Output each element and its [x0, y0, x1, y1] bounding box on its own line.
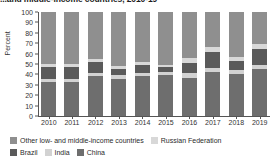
x-tick-label: 2014 — [135, 119, 150, 129]
bar-segment[interactable] — [182, 78, 197, 116]
stacked-bar-chart-figure: ...and middle-income countries, 2010-19 … — [0, 0, 274, 164]
bar-segment[interactable] — [41, 67, 56, 78]
x-tick-mark — [260, 116, 261, 119]
bar-segment[interactable] — [111, 12, 126, 66]
x-tick-mark — [95, 116, 96, 119]
bar-segment[interactable] — [229, 74, 244, 116]
legend-swatch-icon — [10, 149, 17, 156]
bar-segment[interactable] — [88, 62, 103, 73]
legend-row-1: Other low- and middle-income countriesRu… — [10, 134, 274, 146]
bar-segment[interactable] — [229, 12, 244, 57]
legend-swatch-icon — [77, 149, 84, 156]
x-tick-label: 2012 — [88, 119, 103, 129]
bar-segment[interactable] — [135, 65, 150, 73]
legend-item[interactable]: Other low- and middle-income countries — [10, 137, 144, 144]
bar-segment[interactable] — [135, 12, 150, 62]
legend-item[interactable]: China — [77, 149, 105, 156]
bar-segment[interactable] — [252, 49, 267, 65]
bar-column[interactable] — [229, 12, 244, 116]
bar-segment[interactable] — [88, 76, 103, 116]
legend-label: India — [55, 149, 70, 156]
bar-segment[interactable] — [182, 12, 197, 58]
bar-segment[interactable] — [135, 76, 150, 116]
bar-column[interactable] — [64, 12, 79, 116]
bar-segment[interactable] — [41, 82, 56, 116]
bar-series-group — [38, 12, 270, 116]
bar-column[interactable] — [182, 12, 197, 116]
x-tick-label: 2010 — [41, 119, 56, 129]
y-axis-label: Percent — [4, 44, 11, 56]
bar-segment[interactable] — [111, 79, 126, 116]
legend-swatch-icon — [151, 137, 158, 144]
chart-legend: Other low- and middle-income countriesRu… — [10, 134, 274, 158]
bar-column[interactable] — [88, 12, 103, 116]
x-tick-mark — [213, 116, 214, 119]
x-tick-label: 2017 — [205, 119, 220, 129]
chart-title-clipped: ...and middle-income countries, 2010-19 — [0, 0, 274, 5]
legend-item[interactable]: India — [45, 149, 70, 156]
x-tick-label: 2011 — [64, 119, 79, 129]
legend-item[interactable]: Russian Federation — [151, 137, 222, 144]
bar-segment[interactable] — [205, 72, 220, 116]
bar-segment[interactable] — [205, 52, 220, 69]
bar-segment[interactable] — [88, 12, 103, 59]
bar-column[interactable] — [135, 12, 150, 116]
bar-column[interactable] — [158, 12, 173, 116]
bar-segment[interactable] — [229, 61, 244, 70]
legend-item[interactable]: Brazil — [10, 149, 38, 156]
x-tick-label: 2019 — [252, 119, 267, 129]
chart-title: ...and middle-income countries, 2010-19 — [0, 0, 274, 5]
legend-swatch-icon — [45, 149, 52, 156]
bar-segment[interactable] — [182, 63, 197, 73]
legend-row-2: BrazilIndiaChina — [10, 146, 274, 158]
legend-label: Russian Federation — [161, 137, 222, 144]
bar-column[interactable] — [252, 12, 267, 116]
bar-segment[interactable] — [64, 12, 79, 64]
x-tick-mark — [119, 116, 120, 119]
bar-segment[interactable] — [158, 75, 173, 116]
legend-label: China — [87, 149, 105, 156]
x-tick-label: 2013 — [111, 119, 126, 129]
legend-label: Other low- and middle-income countries — [20, 137, 144, 144]
bar-segment[interactable] — [252, 12, 267, 44]
x-tick-mark — [49, 116, 50, 119]
x-tick-mark — [189, 116, 190, 119]
bar-segment[interactable] — [64, 67, 79, 78]
x-tick-mark — [72, 116, 73, 119]
bar-column[interactable] — [41, 12, 56, 116]
bar-column[interactable] — [205, 12, 220, 116]
bar-segment[interactable] — [41, 12, 56, 64]
x-tick-label: 2018 — [229, 119, 244, 129]
plot-area: 0102030405060708090100 — [38, 12, 270, 116]
x-tick-mark — [236, 116, 237, 119]
x-tick-mark — [166, 116, 167, 119]
x-axis-tick-labels: 2010201120122013201420152016201720182019 — [38, 119, 270, 129]
legend-swatch-icon — [10, 137, 17, 144]
legend-label: Brazil — [20, 149, 38, 156]
bar-segment[interactable] — [252, 69, 267, 116]
x-tick-label: 2015 — [158, 119, 173, 129]
bar-segment[interactable] — [64, 82, 79, 116]
bar-segment[interactable] — [205, 12, 220, 47]
bar-column[interactable] — [111, 12, 126, 116]
x-tick-label: 2016 — [182, 119, 197, 129]
bar-segment[interactable] — [158, 12, 173, 65]
x-tick-mark — [142, 116, 143, 119]
